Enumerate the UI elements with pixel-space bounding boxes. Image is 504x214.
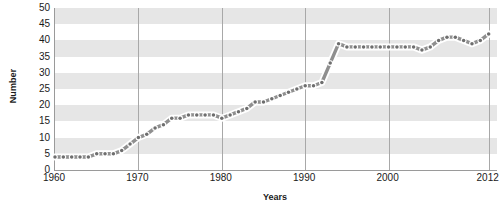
data-point-marker — [312, 84, 316, 88]
data-point-marker — [87, 155, 91, 159]
data-point-marker — [212, 113, 216, 117]
data-point-marker — [253, 100, 257, 104]
data-point-marker — [228, 113, 232, 117]
data-point-marker — [137, 136, 141, 140]
y-tick-label: 20 — [39, 100, 50, 110]
data-point-marker — [78, 155, 82, 159]
y-tick-label: 5 — [44, 149, 50, 159]
data-point-marker — [337, 42, 341, 46]
data-point-marker — [120, 149, 124, 153]
x-tick-label: 1960 — [43, 173, 65, 183]
y-tick-label: 35 — [39, 52, 50, 62]
data-point-marker — [404, 45, 408, 49]
data-point-marker — [220, 116, 224, 120]
data-point-marker — [112, 152, 116, 156]
data-point-marker — [62, 155, 65, 159]
x-tick-label: 1990 — [293, 173, 315, 183]
y-axis-tick-labels: 05101520253035404550 — [26, 8, 50, 170]
y-tick-label: 45 — [39, 19, 50, 29]
plot-area — [54, 8, 497, 171]
data-point-marker — [153, 126, 157, 130]
data-point-marker — [95, 152, 99, 156]
y-tick-label: 15 — [39, 116, 50, 126]
data-point-marker — [162, 123, 166, 127]
data-point-marker — [362, 45, 366, 49]
x-tick-label: 2000 — [376, 173, 398, 183]
data-point-marker — [379, 45, 383, 49]
data-point-marker — [370, 45, 374, 49]
x-axis-title: Years — [54, 192, 496, 202]
data-point-marker — [320, 81, 324, 85]
data-point-marker — [454, 35, 458, 39]
data-point-marker — [345, 45, 349, 49]
data-point-marker — [70, 155, 74, 159]
y-tick-label: 40 — [39, 35, 50, 45]
data-point-marker — [245, 107, 249, 111]
data-point-marker — [237, 110, 241, 114]
data-point-marker — [387, 45, 391, 49]
data-point-marker — [203, 113, 207, 117]
y-tick-label: 25 — [39, 84, 50, 94]
x-axis-tick-labels: 196019701980199020002012 — [54, 173, 496, 189]
data-point-marker — [437, 39, 441, 43]
data-point-marker — [487, 32, 491, 36]
y-tick-label: 10 — [39, 133, 50, 143]
data-point-marker — [328, 61, 332, 65]
data-point-marker — [103, 152, 107, 156]
data-point-marker — [420, 48, 424, 52]
data-point-marker — [278, 94, 282, 98]
data-point-marker — [287, 90, 291, 94]
y-axis-title: Number — [2, 0, 24, 172]
data-point-marker — [53, 155, 57, 159]
x-tick-label: 1980 — [210, 173, 232, 183]
y-tick-label: 30 — [39, 68, 50, 78]
y-tick-label: 50 — [39, 3, 50, 13]
x-tick-label: 1970 — [126, 173, 148, 183]
data-point-marker — [445, 35, 449, 39]
x-tick-label: 2012 — [477, 173, 499, 183]
data-point-marker — [429, 45, 433, 49]
data-point-marker — [303, 84, 307, 88]
data-point-marker — [195, 113, 199, 117]
series-line-number — [55, 8, 497, 170]
data-point-marker — [145, 133, 149, 137]
line-chart: Number 05101520253035404550 196019701980… — [0, 0, 504, 214]
series-layer — [55, 8, 497, 170]
data-point-marker — [353, 45, 357, 49]
data-point-marker — [295, 87, 299, 91]
data-point-marker — [270, 97, 274, 101]
data-point-marker — [170, 116, 174, 120]
data-point-marker — [462, 39, 466, 43]
data-point-marker — [128, 142, 132, 146]
data-point-marker — [178, 116, 182, 120]
data-point-marker — [395, 45, 399, 49]
data-point-marker — [187, 113, 191, 117]
y-axis-title-label: Number — [8, 69, 18, 104]
data-point-marker — [262, 100, 266, 104]
data-point-marker — [470, 42, 474, 46]
data-point-marker — [479, 39, 483, 43]
data-point-marker — [412, 45, 416, 49]
